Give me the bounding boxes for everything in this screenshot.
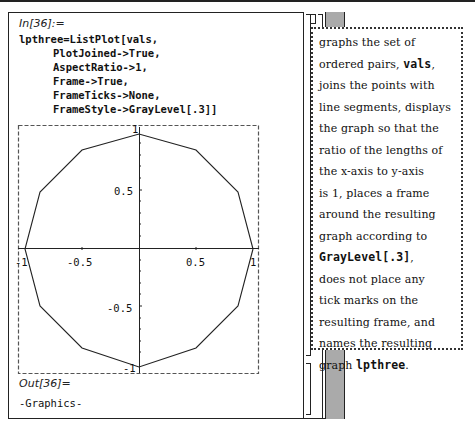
callout-line: graph lpthree. [319,355,457,377]
callout-text: graph according to [319,230,427,243]
callout-line: names the resulting [319,333,457,355]
callout-line: joins the points with [319,75,457,97]
callout-text: does not place any [319,273,425,286]
callout-text: the x-axis to y-axis [319,165,424,178]
callout-code-term: GrayLevel[.3] [319,250,410,264]
callout-text: joins the points with [319,79,435,92]
callout-line: graphs the set of [319,32,457,54]
x-tick-label-1: 1 [250,256,256,268]
input-cell-bracket-inner[interactable] [311,14,316,24]
callout-text: , [431,58,435,71]
callout-text: graph [319,359,356,372]
callout-line: is 1, places a frame [319,183,457,205]
callout-text: graphs the set of [319,36,415,49]
callout-text: the graph so that the [319,122,439,135]
x-tick-label-0.5: 0.5 [186,256,205,268]
callout-line: does not place any [319,269,457,291]
y-tick-label-0.5: 0.5 [114,185,133,197]
x-tick-label-neg0.5: -0.5 [67,256,92,268]
output-cell-bracket[interactable] [306,363,311,415]
callout-line: GrayLevel[.3], [319,247,457,269]
callout-text: is 1, places a frame [319,187,429,200]
callout-line: the x-axis to y-axis [319,161,457,183]
callout-text: tick marks on the [319,294,418,307]
output-graphics-value: -Graphics- [19,397,82,409]
callout-text: around the resulting [319,208,436,221]
callout-text: line segments, displays [319,101,451,114]
output-label: Out[36]= [19,377,71,390]
callout-line: ratio of the lengths of [319,140,457,162]
callout-line: resulting frame, and [319,312,457,334]
callout-line: the graph so that the [319,118,457,140]
callout-text: ordered pairs, [319,58,403,71]
callout-line: line segments, displays [319,97,457,119]
callout-text: resulting frame, and [319,316,435,329]
x-tick-label-neg1: -1 [15,256,28,268]
callout-line: tick marks on the [319,290,457,312]
callout-code-term: vals [403,57,431,71]
callout-text: ratio of the lengths of [319,144,442,157]
y-tick-label-1: 1 [132,123,138,135]
callout-line: around the resulting [319,204,457,226]
callout-text: , [410,251,414,264]
callout-code-term: lpthree [356,358,405,372]
callout-text: . [405,359,409,372]
callout-line: ordered pairs, vals, [319,54,457,76]
callout-line: graph according to [319,226,457,248]
y-tick-label-neg1: -1 [123,362,136,374]
annotation-callout: graphs the set ofordered pairs, vals,joi… [311,27,463,350]
y-tick-label-neg0.5: -0.5 [107,302,132,314]
callout-text: names the resulting [319,337,432,350]
plot-frame [19,126,259,374]
